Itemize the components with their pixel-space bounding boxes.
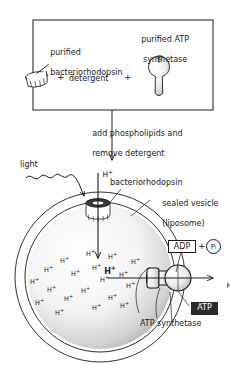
atp-label: ATP <box>197 303 212 312</box>
lumen-proton: H+ <box>60 258 69 265</box>
pi-circle: Pi <box>206 239 221 254</box>
atp-box: ATP <box>191 302 218 315</box>
lumen-proton: H+ <box>35 300 44 307</box>
diagram-root: purified bacteriorhodopsin purified ATP … <box>0 0 230 367</box>
lumen-proton: H+ <box>47 287 56 294</box>
lumen-proton: H+ <box>64 296 73 303</box>
purified-atp-synthetase-line1: purified ATP <box>141 35 189 44</box>
process-caption-line2: remove detergent <box>92 149 164 158</box>
purified-bacteriorhodopsin-line1: purified <box>50 48 81 57</box>
process-caption: add phospholipids and remove detergent <box>82 119 212 169</box>
lumen-proton: H+ <box>120 303 129 310</box>
adp-label: ADP <box>174 242 190 251</box>
lumen-proton: H+ <box>108 295 117 302</box>
lumen-proton: H+ <box>30 279 39 286</box>
detergent-label: detergent <box>69 74 108 84</box>
purified-atp-synthetase-line2: synthetase <box>143 55 187 64</box>
sealed-vesicle-line1: sealed vesicle <box>162 199 218 208</box>
sealed-vesicle-line2: (liposome) <box>162 219 204 228</box>
light-wavy-arrow <box>26 174 84 196</box>
lumen-proton: H+ <box>71 271 80 278</box>
adp-box: ADP <box>168 240 196 253</box>
lumen-proton: H+ <box>100 277 109 284</box>
efflux-proton-label: H+ <box>217 274 230 297</box>
lumen-proton: H+ <box>92 265 101 272</box>
bacteriorhodopsin-label: bacteriorhodopsin <box>110 178 182 188</box>
lumen-proton: H+ <box>108 254 117 261</box>
plus-sign-2: + <box>124 73 132 82</box>
reaction-plus-sign: + <box>198 242 206 251</box>
pi-subscript: i <box>215 244 216 250</box>
process-caption-line1: add phospholipids and <box>92 129 182 138</box>
plus-sign-1: + <box>57 73 65 82</box>
lumen-proton: H+ <box>86 251 95 258</box>
purified-atp-synthetase-label: purified ATP synthetase <box>122 25 198 75</box>
lumen-proton: H+ <box>119 272 128 279</box>
atp-synthetase-label: ATP synthetase <box>140 319 201 329</box>
lumen-proton: H+ <box>92 305 101 312</box>
lumen-proton: H+ <box>131 259 140 266</box>
lumen-proton: H+ <box>44 267 53 274</box>
lumen-proton: H+ <box>126 283 135 290</box>
light-label: light <box>20 160 38 170</box>
sealed-vesicle-label: sealed vesicle (liposome) <box>152 189 228 239</box>
lumen-proton: H+ <box>81 288 90 295</box>
lumen-proton: H+ <box>55 310 64 317</box>
